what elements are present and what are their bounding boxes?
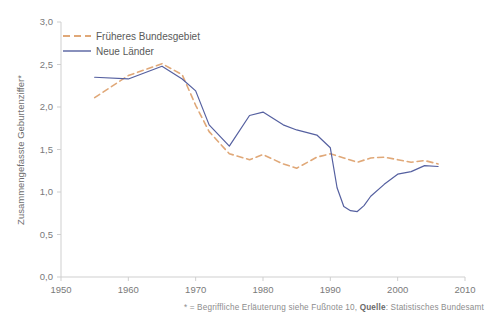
legend-label-2: Neue Länder (96, 46, 154, 57)
y-axis-ticks: 0,00,51,01,52,02,53,0 (40, 16, 61, 282)
x-tick-label: 2000 (387, 284, 408, 295)
x-tick-label: 2010 (454, 284, 475, 295)
plot-area-background (61, 22, 465, 277)
x-tick-label: 1970 (185, 284, 206, 295)
y-tick-label: 1,5 (40, 144, 53, 155)
y-tick-label: 0,5 (40, 229, 53, 240)
birth-rate-line-chart: 0,00,51,01,52,02,53,0 195019601970198019… (0, 0, 495, 324)
y-tick-label: 1,0 (40, 186, 53, 197)
x-tick-label: 1950 (50, 284, 71, 295)
footnote-source-value: : Statistisches Bundesamt (386, 303, 484, 312)
x-tick-label: 1980 (252, 284, 273, 295)
chart-footnote: * = Begriffliche Erläuterung siehe Fußno… (0, 303, 484, 312)
y-axis-title: Zusammengefasste Geburtenziffer* (15, 75, 26, 225)
chart-canvas: 0,00,51,01,52,02,53,0 195019601970198019… (0, 0, 495, 324)
x-tick-label: 1990 (320, 284, 341, 295)
y-tick-label: 2,5 (40, 59, 53, 70)
x-tick-label: 1960 (118, 284, 139, 295)
y-tick-label: 0,0 (40, 271, 53, 282)
footnote-prefix: * = Begriffliche Erläuterung siehe Fußno… (184, 303, 360, 312)
footnote-source-label: Quelle (360, 303, 386, 312)
legend-label-1: Früheres Bundesgebiet (96, 31, 200, 42)
x-axis-ticks: 1950196019701980199020002010 (50, 277, 475, 295)
y-tick-label: 2,0 (40, 101, 53, 112)
y-tick-label: 3,0 (40, 16, 53, 27)
